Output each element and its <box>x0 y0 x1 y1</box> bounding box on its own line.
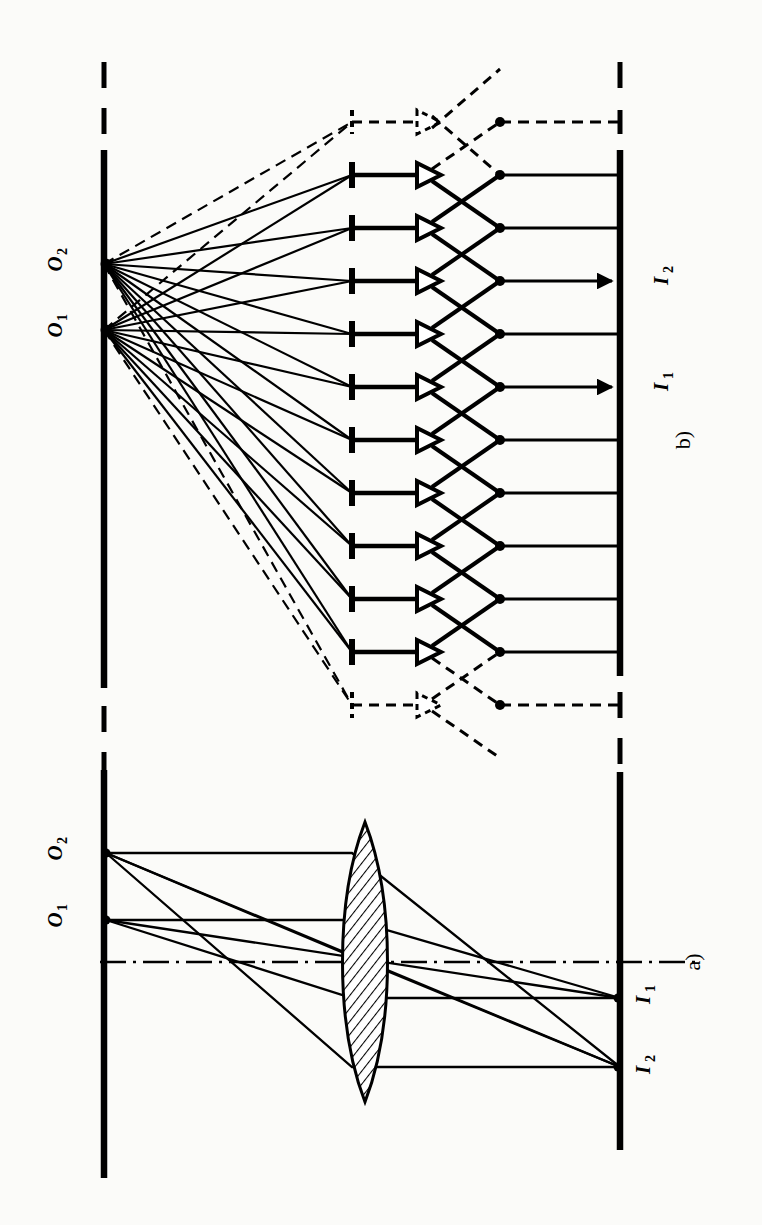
panel-b-i2-base: I <box>649 276 673 286</box>
object-point-o2 <box>101 259 112 270</box>
panel-a-caption-text: a) <box>680 953 705 970</box>
panel-a-caption: a) <box>680 953 705 970</box>
panel-a-o1-sub: 1 <box>55 904 70 911</box>
panel-a-o2-base: O <box>43 845 67 860</box>
panel-b-o2-base: O <box>43 256 67 271</box>
optical-diagram-svg: I 2 I 1 O 2 O 1 b) <box>0 0 762 1225</box>
panel-a-i2-sub: 2 <box>643 1055 658 1062</box>
panel-b-o1-base: O <box>43 322 67 337</box>
panel-a-i1-base: I <box>631 995 655 1005</box>
panel-b-o2-sub: 2 <box>55 248 70 255</box>
panel-a-object-point-o1 <box>102 916 111 925</box>
panel-a-image-point-i1 <box>614 994 623 1003</box>
figure-root: I 2 I 1 O 2 O 1 b) <box>0 0 762 1225</box>
panel-b-caption: b) <box>670 431 695 449</box>
panel-a-i2-base: I <box>631 1065 655 1075</box>
panel-b-i1-base: I <box>649 382 673 392</box>
panel-b-i2-sub: 2 <box>661 266 676 273</box>
object-point-o1 <box>101 325 112 336</box>
panel-b-o1-sub: 1 <box>55 314 70 321</box>
panel-a-o2-sub: 2 <box>55 837 70 844</box>
panel-a-i1-sub: 1 <box>643 985 658 992</box>
panel-b-caption-text: b) <box>670 431 695 449</box>
panel-a-image-point-i2 <box>614 1063 623 1072</box>
panel-a-o1-base: O <box>43 912 67 927</box>
panel-b-i1-sub: 1 <box>661 372 676 379</box>
panel-a-object-point-o2 <box>102 849 111 858</box>
